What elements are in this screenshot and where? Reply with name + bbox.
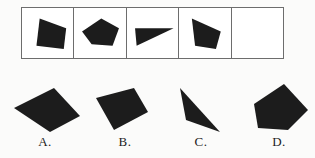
option-d-svg <box>240 78 315 136</box>
sequence-shape-2-polygon <box>82 19 119 46</box>
option-c-polygon <box>180 88 220 132</box>
option-a[interactable] <box>6 78 84 136</box>
sequence-shape-1 <box>22 8 73 58</box>
option-b[interactable] <box>86 78 164 136</box>
option-d[interactable] <box>240 78 315 136</box>
sequence-shape-1-polygon <box>36 19 66 50</box>
option-b-label: B. <box>86 134 164 150</box>
option-d-shape <box>240 78 315 136</box>
sequence-strip <box>21 7 284 59</box>
sequence-shape-4 <box>179 8 230 58</box>
option-a-svg <box>6 78 84 136</box>
option-d-polygon <box>254 84 308 130</box>
option-a-shape <box>6 78 84 136</box>
option-b-svg <box>86 78 164 136</box>
sequence-cell-3[interactable] <box>127 8 179 58</box>
sequence-shape-3 <box>127 8 178 58</box>
figure-sequence-puzzle: A. B. C. D. <box>0 0 315 158</box>
option-b-shape <box>86 78 164 136</box>
option-labels-row: A. B. C. D. <box>0 134 315 156</box>
option-d-label: D. <box>240 134 315 150</box>
sequence-shape-3-polygon <box>135 28 174 46</box>
sequence-cell-4[interactable] <box>179 8 231 58</box>
option-c-svg <box>162 78 240 136</box>
option-a-label: A. <box>6 134 84 150</box>
sequence-shape-4-polygon <box>192 19 221 50</box>
option-b-polygon <box>96 88 148 130</box>
sequence-cell-2[interactable] <box>74 8 126 58</box>
sequence-shape-2 <box>74 8 125 58</box>
option-c-shape <box>162 78 240 136</box>
option-a-polygon <box>14 88 80 132</box>
option-c[interactable] <box>162 78 240 136</box>
sequence-cell-1[interactable] <box>22 8 74 58</box>
options-row <box>0 78 315 136</box>
sequence-cell-5-empty[interactable] <box>232 8 283 58</box>
option-c-label: C. <box>162 134 240 150</box>
